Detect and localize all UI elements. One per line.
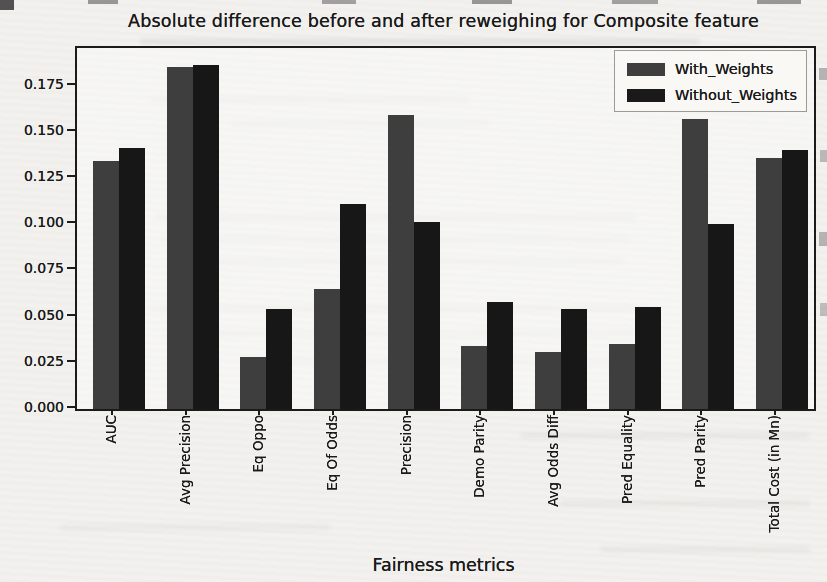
bar-without_weights [782,150,808,409]
legend-entry-without-weights: Without_Weights [627,85,796,105]
bar-with_weights [461,346,487,409]
y-tick-mark [67,314,75,316]
with-weights-swatch-icon [627,63,665,76]
bar-without_weights [266,309,292,409]
bar-without_weights [635,307,661,409]
bar-without_weights [414,222,440,409]
x-tick-label: Precision [398,415,415,475]
x-tick-label: Total Cost (in Mn) [766,415,783,532]
bar-without_weights [561,309,587,409]
y-tick-mark [67,129,75,131]
bar-with_weights [314,289,340,409]
scan-edge-mark [819,232,827,246]
x-tick-label: AUC [103,415,120,444]
bar-with_weights [682,119,708,409]
scan-edge-mark [820,150,827,162]
y-tick-label: 0.150 [2,121,64,139]
x-tick-label: Pred Parity [692,415,709,488]
y-tick-label: 0.075 [2,259,64,277]
y-tick-mark [67,360,75,362]
bar-without_weights [119,148,145,409]
legend-entry-with-weights: With_Weights [627,59,796,79]
y-tick-label: 0.125 [2,167,64,185]
y-tick-label: 0.050 [2,306,64,324]
bar-without_weights [487,302,513,409]
bar-with_weights [388,115,414,409]
bar-without_weights [193,65,219,409]
bleed-through-text [600,546,810,553]
bar-without_weights [708,224,734,409]
y-tick-label: 0.100 [2,213,64,231]
x-axis-title: Fairness metrics [75,555,812,575]
x-tick-label: Eq Of Odds [324,415,341,491]
bar-without_weights [340,204,366,409]
without-weights-swatch-icon [627,89,665,102]
scan-edge-mark [472,0,512,4]
bar-with_weights [609,344,635,409]
y-tick-mark [67,175,75,177]
scan-edge-mark [88,0,118,4]
scan-edge-mark [820,303,827,316]
y-tick-mark [67,221,75,223]
chart-title: Absolute difference before and after rew… [75,11,812,31]
legend: With_Weights Without_Weights [614,50,807,112]
x-tick-label: Avg Odds Diff [545,415,562,507]
y-tick-mark [67,267,75,269]
bar-with_weights [167,67,193,409]
bar-with_weights [240,357,266,409]
bar-with_weights [93,161,119,409]
bar-with_weights [756,158,782,409]
scanned-figure: Absolute difference before and after rew… [0,0,827,582]
x-tick-label: Demo Parity [471,415,488,498]
scan-edge-mark [819,68,827,80]
y-tick-mark [67,83,75,85]
legend-label: With_Weights [675,61,773,77]
y-tick-label: 0.025 [2,352,64,370]
x-tick-label: Avg Precision [177,415,194,505]
bleed-through-text [60,524,330,531]
scan-corner-mark [0,0,14,10]
scan-edge-mark [612,0,658,4]
y-tick-label: 0.000 [2,398,64,416]
legend-label: Without_Weights [675,87,797,103]
bleed-through-text [140,39,700,44]
y-tick-label: 0.175 [2,75,64,93]
scan-edge-mark [757,0,801,4]
y-tick-mark [67,406,75,408]
bar-with_weights [535,352,561,409]
x-tick-label: Pred Equality [619,415,636,504]
scan-edge-mark [322,0,356,4]
x-tick-label: Eq Oppo [250,415,267,472]
